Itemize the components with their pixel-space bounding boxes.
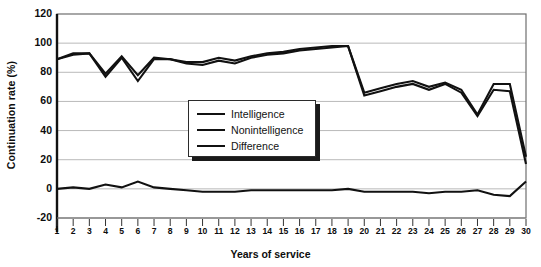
y-tick-label: 100 [18,36,52,48]
legend-line-icon [197,113,225,115]
y-tick-label: 0 [18,182,52,194]
legend-line-icon [197,145,225,147]
y-tick-label: 120 [18,7,52,19]
y-tick-label: 40 [18,124,52,136]
y-tick-label: 60 [18,94,52,106]
chart-legend: Intelligence Nonintelligence Difference [188,100,316,157]
x-axis-ticks-group [57,219,526,226]
legend-item-label: Intelligence [231,108,285,120]
legend-item-difference: Difference [197,138,279,154]
x-tick-label: 30 [514,226,538,236]
y-tick-label: -20 [18,211,52,223]
y-tick-label: 80 [18,65,52,77]
legend-item-nonintelligence: Nonintelligence [197,122,303,138]
x-axis-title: Years of service [0,248,541,260]
legend-item-label: Nonintelligence [231,124,303,136]
legend-item-intelligence: Intelligence [197,106,285,122]
chart-container: Continuation rate (%) -20020406080100120… [0,0,541,267]
legend-item-label: Difference [231,140,279,152]
legend-line-icon [197,129,225,131]
y-tick-label: 20 [18,153,52,165]
